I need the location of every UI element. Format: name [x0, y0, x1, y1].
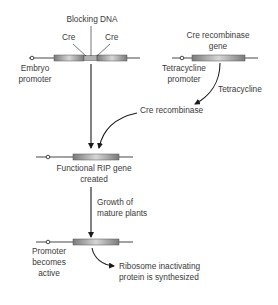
promoter-circle-icon [46, 155, 50, 159]
cre-recombinase-gene-bar [192, 55, 245, 61]
cre-site-right [97, 55, 127, 61]
tetracycline-inducer-label: Tetracycline [218, 84, 262, 95]
tetracycline-promoter-construct [172, 55, 258, 61]
ribosome-inactivating-protein-label: Ribosome inactivating protein is synthes… [119, 261, 200, 283]
embryo-promoter-construct [29, 26, 140, 61]
growth-label: Growth of mature plants [97, 197, 147, 219]
blocking-dna-label: Blocking DNA [58, 14, 126, 25]
functional-rip-gene-construct [36, 154, 133, 160]
embryo-promoter-label: Embryo promoter [10, 63, 60, 85]
promoter-active-label: Promoter becomes active [24, 246, 74, 279]
cre-recombinase-gene-label: Cre recombinase gene [178, 30, 258, 52]
active-promoter-construct [36, 239, 133, 245]
expression-arrow [92, 248, 114, 266]
promoter-circle-icon [46, 240, 50, 244]
cre-left-label: Cre [62, 32, 75, 43]
functional-rip-gene-label: Functional RIP gene created [50, 163, 138, 185]
cre-site-left [54, 55, 84, 61]
cre-recombinase-label: Cre recombinase [140, 105, 203, 116]
rip-gene-bar [73, 239, 119, 245]
promoter-circle-icon [180, 56, 184, 60]
rip-gene-bar [73, 154, 119, 160]
cre-right-label: Cre [105, 32, 118, 43]
cre-action-arrow [99, 113, 137, 148]
tetracycline-promoter-label: Tetracycline promoter [156, 63, 212, 85]
blocking-dna-segment [84, 56, 97, 61]
promoter-circle-icon [30, 56, 34, 60]
